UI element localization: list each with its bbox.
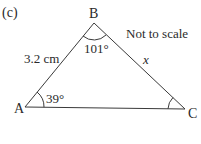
part-label: (c) — [2, 5, 18, 21]
angle-label-b: 101° — [84, 41, 109, 56]
angle-label-a: 39° — [46, 91, 64, 106]
vertex-label-a: A — [14, 101, 25, 116]
vertex-label-b: B — [89, 6, 98, 21]
not-to-scale-note: Not to scale — [126, 26, 188, 41]
angle-arc-c — [168, 98, 173, 109]
side-label-bc: x — [142, 52, 149, 67]
vertex-label-c: C — [188, 106, 197, 121]
angle-arc-a — [37, 92, 44, 107]
side-label-ab: 3.2 cm — [24, 51, 59, 66]
side-ac — [25, 107, 185, 109]
triangle-figure: (c) B A C 101° 39° 3.2 cm x Not to scale — [0, 0, 201, 144]
angle-arc-b — [83, 35, 106, 40]
